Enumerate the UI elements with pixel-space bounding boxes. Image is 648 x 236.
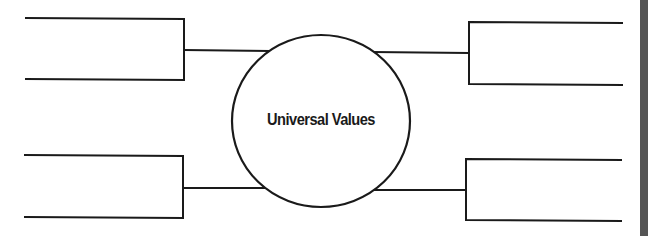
- page-edge-bar: [640, 0, 648, 236]
- branch-top-left: [25, 18, 270, 80]
- branch-bottom-left: [24, 155, 270, 218]
- connector-top-right: [372, 52, 469, 53]
- connector-top-left: [184, 50, 270, 51]
- branch-bottom-right: [372, 159, 622, 221]
- center-label: Universal Values: [244, 110, 399, 130]
- branch-top-right: [372, 22, 623, 85]
